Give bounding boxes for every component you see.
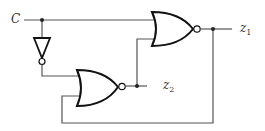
inverter-gate bbox=[34, 38, 50, 65]
output-label-z1: z1 bbox=[240, 22, 251, 37]
circuit-diagram: C z1 z2 bbox=[0, 0, 265, 131]
nor-gate-top bbox=[152, 12, 200, 46]
junction-dot bbox=[40, 18, 44, 22]
nor-gate-bottom bbox=[77, 70, 125, 106]
junction-dot bbox=[135, 84, 139, 88]
wire-inverter-to-nor-bottom bbox=[42, 65, 80, 76]
junction-dot bbox=[211, 27, 215, 31]
input-label-c: C bbox=[11, 13, 20, 25]
wires bbox=[24, 20, 232, 123]
circuit-svg bbox=[0, 0, 265, 131]
output-label-z2: z2 bbox=[163, 79, 174, 94]
